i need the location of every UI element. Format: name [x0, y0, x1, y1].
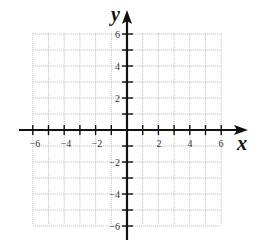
x-tick-label: −6	[30, 138, 41, 149]
y-axis-label: y	[109, 3, 120, 26]
x-tick-label: 6	[219, 138, 224, 149]
x-axis-label: x	[236, 132, 247, 154]
x-tick-label: 2	[157, 138, 162, 149]
y-tick-label: −2	[109, 157, 120, 168]
coordinate-plane: −6 −4 −2 2 4 6 6 4 2 −2 −4 −6 y x	[0, 0, 259, 249]
x-tick-label: −2	[92, 138, 103, 149]
x-tick-label: 4	[188, 138, 193, 149]
y-tick-label: −6	[109, 221, 120, 232]
x-tick-label: −4	[61, 138, 72, 149]
y-axis	[122, 10, 133, 240]
y-tick-label: −4	[109, 189, 120, 200]
y-tick-label: 2	[115, 93, 120, 104]
y-tick-label: 4	[115, 61, 120, 72]
x-axis	[19, 125, 248, 135]
y-tick-label: 6	[115, 29, 120, 40]
